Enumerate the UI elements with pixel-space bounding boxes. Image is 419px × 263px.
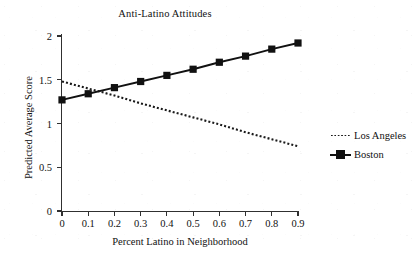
data-point-marker: [85, 90, 92, 97]
legend-swatch-solid-line-square-marker-icon: [330, 149, 351, 161]
data-point-marker: [137, 78, 144, 85]
data-point-marker: [190, 66, 197, 73]
data-point-marker: [216, 59, 223, 66]
data-point-marker: [242, 53, 249, 60]
series-line-boston: [62, 43, 298, 100]
data-point-marker: [163, 72, 170, 79]
data-point-marker: [58, 96, 65, 103]
legend-label-boston: Boston: [354, 149, 384, 160]
legend-label-los-angeles: Los Angeles: [354, 130, 406, 141]
legend-item-boston[interactable]: Boston: [330, 145, 418, 164]
chart-figure: Anti-Latino Attitudes 00.511.52 00.10.20…: [0, 0, 419, 263]
data-point-marker: [111, 84, 118, 91]
chart-legend: Los Angeles Boston: [330, 126, 418, 164]
data-point-marker: [268, 46, 275, 53]
legend-item-los-angeles[interactable]: Los Angeles: [330, 126, 418, 145]
legend-swatch-dotted-line-icon: [330, 130, 351, 142]
data-point-marker: [294, 39, 301, 46]
